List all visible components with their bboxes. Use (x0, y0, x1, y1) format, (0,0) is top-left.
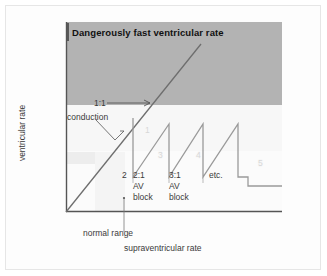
conduction-ratio-label: 1:1 (94, 98, 106, 108)
chart-graphics (0, 0, 327, 276)
etc-label: etc. (209, 170, 223, 180)
segment-number-1: 1 (145, 125, 150, 135)
segment-number-5: 5 (258, 158, 263, 168)
av-block-label-3-1: 3:1 AV block (169, 170, 189, 203)
y-axis-label: ventricular rate (17, 88, 27, 178)
figure-container: Dangerously fast ventricular rate ventri… (0, 0, 327, 276)
segment-number-2: 2 (122, 170, 127, 180)
normal-range-pointer-dot (123, 197, 125, 199)
conduction-label: conduction (67, 112, 108, 122)
normal-range-column (95, 152, 125, 212)
x-axis-label: supraventricular rate (124, 243, 201, 253)
segment-number-4: 4 (196, 150, 201, 160)
normal-range-label: normal range (83, 228, 133, 238)
title-accent-bar (67, 23, 69, 41)
chart-title: Dangerously fast ventricular rate (72, 27, 224, 38)
av-block-label-2-1: 2:1 AV block (133, 170, 153, 203)
segment-number-3: 3 (158, 150, 163, 160)
